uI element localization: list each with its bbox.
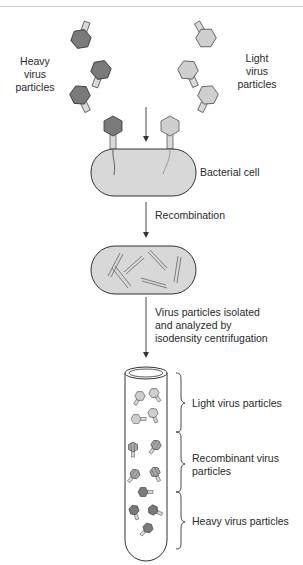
bacterial-cell xyxy=(91,149,196,196)
arrow-infect xyxy=(143,107,149,142)
heavy-virus-group xyxy=(68,19,113,115)
brace-light xyxy=(176,373,185,432)
brace-heavy xyxy=(176,492,185,549)
arrow-recombination xyxy=(143,202,149,238)
label-line: Light xyxy=(232,52,282,65)
label-bacterial-cell: Bacterial cell xyxy=(200,166,260,179)
label-tube-recombinant: Recombinant virus particles xyxy=(192,452,279,478)
label-line: Heavy xyxy=(10,55,60,68)
label-line: and analyzed by xyxy=(155,319,268,332)
label-line: particles xyxy=(232,78,282,91)
label-recombination: Recombination xyxy=(155,209,225,222)
label-isolation: Virus particles isolated and analyzed by… xyxy=(155,306,268,345)
label-line: Virus particles isolated xyxy=(155,306,268,319)
label-tube-light: Light virus particles xyxy=(192,397,282,410)
label-light-virus: Light virus particles xyxy=(232,52,282,91)
recombination-cell xyxy=(91,246,196,294)
label-heavy-virus: Heavy virus particles xyxy=(10,55,60,94)
label-line: virus xyxy=(10,68,60,81)
light-virus-group xyxy=(176,18,221,115)
label-tube-heavy: Heavy virus particles xyxy=(192,515,289,528)
arrow-centrifugation xyxy=(143,297,149,358)
label-line: particles xyxy=(10,81,60,94)
label-line: virus xyxy=(232,65,282,78)
label-line: particles xyxy=(192,465,279,478)
label-line: isodensity centrifugation xyxy=(155,332,268,345)
label-line: Recombinant virus xyxy=(192,452,279,465)
attached-viruses xyxy=(104,116,179,149)
brace-recombinant xyxy=(176,432,185,492)
